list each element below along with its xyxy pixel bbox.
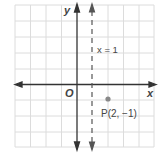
down-arrow-icon (75, 142, 80, 150)
coordinate-plane: y x O x = 1 P(2, −1) (0, 0, 161, 156)
grid (15, 5, 154, 147)
x-axis-label: x (146, 87, 154, 99)
dashed-line-x-equals-1 (90, 4, 95, 150)
point-label: P(2, −1) (101, 108, 137, 119)
down-arrow-icon (90, 142, 95, 150)
origin-label: O (65, 87, 74, 99)
line-label: x = 1 (97, 44, 118, 55)
left-arrow-icon (15, 82, 22, 87)
point-p (105, 96, 110, 101)
y-axis (75, 4, 80, 150)
x-axis (15, 82, 156, 87)
y-axis-label: y (63, 4, 71, 16)
